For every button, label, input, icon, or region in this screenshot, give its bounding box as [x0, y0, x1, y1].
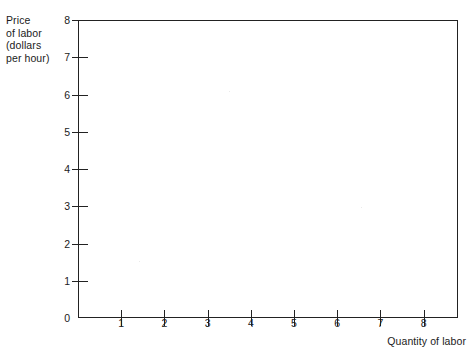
y-tick-label-5: 5: [48, 127, 70, 138]
x-axis-title: Quantity of labor: [330, 336, 466, 347]
y-tick-label-8: 8: [48, 15, 70, 26]
plot-area: [78, 20, 458, 318]
x-tick-label-3: 3: [198, 318, 218, 329]
scan-speckle: [139, 261, 140, 262]
x-tick-label-6: 6: [327, 318, 347, 329]
y-tick-5: [72, 132, 88, 133]
y-tick-label-7: 7: [48, 52, 70, 63]
y-tick-label-4: 4: [48, 164, 70, 175]
x-tick-label-7: 7: [370, 318, 390, 329]
x-tick-label-2: 2: [154, 318, 174, 329]
y-tick-8: [72, 20, 88, 21]
y-tick-7: [72, 57, 88, 58]
y-tick-label-2: 2: [48, 239, 70, 250]
scan-speckle: [229, 91, 230, 92]
x-tick-label-4: 4: [241, 318, 261, 329]
y-tick-3: [72, 206, 88, 207]
y-tick-6: [72, 95, 88, 96]
y-tick-1: [72, 281, 88, 282]
y-tick-4: [72, 169, 88, 170]
scan-speckle: [361, 207, 362, 208]
y-tick-label-1: 1: [48, 276, 70, 287]
x-tick-label-5: 5: [284, 318, 304, 329]
y-tick-2: [72, 244, 88, 245]
x-tick-label-8: 8: [414, 318, 434, 329]
y-tick-label-3: 3: [48, 201, 70, 212]
y-tick-label-6: 6: [48, 90, 70, 101]
y-tick-label-0: 0: [48, 313, 70, 324]
x-tick-label-1: 1: [111, 318, 131, 329]
chart-figure: Price of labor (dollars per hour) 8 7 6 …: [0, 0, 472, 360]
